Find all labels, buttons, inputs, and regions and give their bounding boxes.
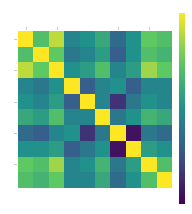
heatmap-cell (157, 109, 172, 125)
heatmap-cell (64, 78, 79, 94)
heatmap-cell (80, 62, 95, 78)
heatmap-cell (141, 47, 156, 63)
heatmap-cell (18, 141, 33, 157)
heatmap-cell (141, 78, 156, 94)
heatmap-cell (126, 47, 141, 63)
heatmap-cell (95, 125, 110, 141)
heatmap-cell (33, 78, 48, 94)
heatmap-cell (95, 172, 110, 188)
heatmap-cell (126, 62, 141, 78)
heatmap-cell (80, 141, 95, 157)
heatmap-cell (64, 62, 79, 78)
heatmap-cell (33, 141, 48, 157)
heatmap-cell (95, 109, 110, 125)
heatmap-cell (49, 94, 64, 110)
heatmap-cell (64, 157, 79, 173)
heatmap-cell (126, 94, 141, 110)
heatmap-cell (110, 125, 125, 141)
heatmap-cell (157, 141, 172, 157)
heatmap-cell (110, 78, 125, 94)
heatmap-cell (33, 94, 48, 110)
heatmap-cell (33, 172, 48, 188)
heatmap-cell (64, 172, 79, 188)
heatmap-cell (64, 125, 79, 141)
heatmap-cell (95, 47, 110, 63)
heatmap-cell (141, 172, 156, 188)
heatmap-cell (49, 172, 64, 188)
x-tick (26, 27, 27, 30)
y-tick (14, 102, 17, 103)
heatmap-cell (126, 141, 141, 157)
heatmap-cell (110, 47, 125, 63)
heatmap-cell (157, 78, 172, 94)
heatmap-cell (18, 125, 33, 141)
heatmap-cell (126, 109, 141, 125)
heatmap-cell (49, 31, 64, 47)
heatmap-cell (157, 172, 172, 188)
heatmap-cell (33, 31, 48, 47)
heatmap-cell (110, 94, 125, 110)
heatmap-cell (80, 109, 95, 125)
heatmap-cell (80, 78, 95, 94)
heatmap-cell (49, 78, 64, 94)
y-tick (14, 39, 17, 40)
heatmap-cell (157, 94, 172, 110)
heatmap-cell (95, 94, 110, 110)
heatmap-cell (126, 125, 141, 141)
heatmap-cell (141, 125, 156, 141)
heatmap-cell (33, 157, 48, 173)
heatmap-cell (110, 31, 125, 47)
heatmap-cell (141, 157, 156, 173)
heatmap-cell (126, 172, 141, 188)
y-tick (14, 164, 17, 165)
heatmap-cell (141, 109, 156, 125)
heatmap-cell (157, 157, 172, 173)
heatmap-cell (18, 94, 33, 110)
heatmap-cell (126, 157, 141, 173)
heatmap-cell (18, 172, 33, 188)
heatmap-cell (49, 141, 64, 157)
heatmap-cell (110, 109, 125, 125)
heatmap-cell (33, 109, 48, 125)
heatmap-cell (110, 141, 125, 157)
heatmap-cell (141, 31, 156, 47)
heatmap-cell (110, 157, 125, 173)
heatmap-cell (95, 157, 110, 173)
x-tick (57, 27, 58, 30)
heatmap-cell (80, 172, 95, 188)
heatmap-cell (157, 31, 172, 47)
heatmap-cell (95, 141, 110, 157)
heatmap-cell (49, 62, 64, 78)
heatmap-cell (64, 141, 79, 157)
heatmap-cell (49, 125, 64, 141)
x-tick (149, 27, 150, 30)
heatmap-cell (18, 31, 33, 47)
heatmap-cell (33, 47, 48, 63)
heatmap-cell (110, 172, 125, 188)
heatmap-cell (49, 109, 64, 125)
heatmap-grid (18, 31, 172, 188)
heatmap-cell (64, 109, 79, 125)
heatmap-cell (18, 62, 33, 78)
heatmap-cell (126, 31, 141, 47)
heatmap-cell (64, 31, 79, 47)
y-tick (14, 133, 17, 134)
heatmap-cell (64, 47, 79, 63)
heatmap-cell (141, 141, 156, 157)
heatmap-cell (126, 78, 141, 94)
heatmap-cell (64, 94, 79, 110)
colorbar (179, 13, 185, 204)
heatmap-cell (80, 47, 95, 63)
heatmap-cell (157, 125, 172, 141)
heatmap-cell (80, 157, 95, 173)
heatmap-cell (141, 94, 156, 110)
heatmap-cell (49, 157, 64, 173)
heatmap-cell (95, 62, 110, 78)
heatmap-cell (95, 31, 110, 47)
heatmap-cell (157, 62, 172, 78)
heatmap-cell (110, 62, 125, 78)
heatmap-cell (157, 47, 172, 63)
heatmap-cell (18, 47, 33, 63)
heatmap-cell (18, 109, 33, 125)
heatmap-cell (18, 157, 33, 173)
